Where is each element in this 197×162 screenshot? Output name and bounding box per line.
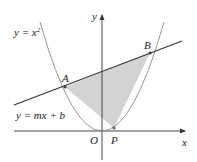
diagram-canvas: y = x2 y = mx + b A B P O x y xyxy=(0,0,197,162)
point-a-marker xyxy=(63,85,66,88)
line-label: y = mx + b xyxy=(15,109,66,121)
y-axis-label: y xyxy=(91,10,97,22)
parabola-label: y = x2 xyxy=(13,26,41,38)
shaded-triangle-apb xyxy=(65,53,150,128)
origin-label: O xyxy=(90,134,98,146)
point-b-marker xyxy=(148,51,151,54)
point-b-label: B xyxy=(144,39,151,51)
x-axis-label: x xyxy=(181,136,187,148)
point-a-label: A xyxy=(61,72,69,84)
point-p-label: P xyxy=(110,134,118,146)
point-p-marker xyxy=(112,126,115,129)
